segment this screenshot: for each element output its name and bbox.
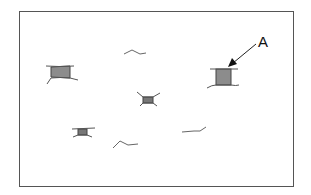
label-a: A <box>258 33 268 50</box>
diagram-canvas <box>0 0 311 195</box>
frame-border <box>20 12 294 187</box>
